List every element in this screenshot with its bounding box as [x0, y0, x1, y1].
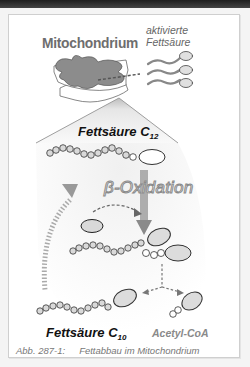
c10-subscript: 10: [118, 333, 127, 342]
acetyl-coa-label: Acetyl-CoA: [152, 327, 209, 339]
mitochondrion-label: Mitochondrium: [42, 34, 138, 51]
fatty-acid-c12-label: Fettsäure C12: [78, 124, 158, 141]
c10-label-text: Fettsäure C: [46, 325, 118, 340]
mitochondrion-icon: [54, 55, 140, 102]
beta-oxidation-label: β-Oxidation: [104, 178, 193, 198]
activated-fatty-acids-icon: [148, 52, 193, 88]
caption-text: Fettabbau im Mitochondrium: [79, 345, 199, 356]
c12-subscript: 12: [150, 132, 159, 141]
fatty-acid-c10-label: Fettsäure C10: [46, 325, 126, 342]
caption-number: Abb. 287-1:: [16, 345, 65, 356]
activated-label-line1: aktivierte: [146, 24, 190, 36]
activated-label-line2: Fettsäure: [146, 36, 190, 48]
activated-fatty-acid-label: aktivierte Fettsäure: [146, 24, 190, 48]
c12-label-text: Fettsäure C: [78, 124, 150, 139]
figure-caption: Abb. 287-1:Fettabbau im Mitochondrium: [16, 345, 200, 356]
